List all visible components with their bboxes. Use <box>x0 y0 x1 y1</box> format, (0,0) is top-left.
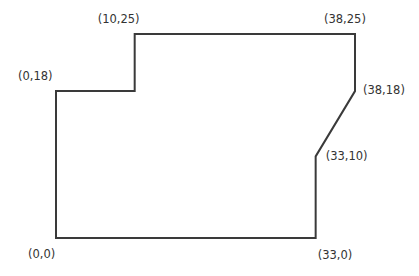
vertex-label: (33,0) <box>318 248 353 262</box>
vertex-label: (38,18) <box>363 83 405 97</box>
polygon-outline <box>56 34 355 238</box>
vertex-label: (0,0) <box>28 247 55 261</box>
diagram-canvas: (0,0)(0,18)(10,25)(38,25)(38,18)(33,10)(… <box>0 0 419 276</box>
vertex-label: (38,25) <box>324 12 366 26</box>
vertex-label: (0,18) <box>18 69 53 83</box>
vertex-label: (33,10) <box>326 149 368 163</box>
vertex-label: (10,25) <box>98 12 140 26</box>
